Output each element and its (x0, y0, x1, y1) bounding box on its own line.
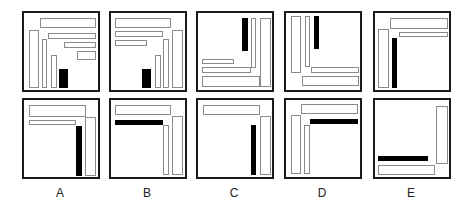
panel-a-top (22, 11, 100, 92)
outlined-bar (85, 117, 96, 176)
black-bar (242, 18, 248, 51)
black-bar (392, 38, 397, 88)
outlined-bar (399, 32, 448, 37)
outlined-bar (155, 55, 161, 88)
panel-d-top (284, 11, 362, 92)
outlined-bar (291, 115, 301, 174)
outlined-bar (436, 106, 448, 164)
black-bar (310, 119, 358, 124)
outlined-bar (115, 18, 171, 28)
black-bar (142, 69, 151, 88)
outlined-bar (172, 30, 183, 88)
outlined-bar (260, 18, 271, 87)
outlined-bar (29, 30, 39, 88)
outlined-bar (42, 39, 47, 88)
black-bar (378, 156, 428, 161)
outlined-bar (115, 40, 147, 46)
outlined-bar (64, 42, 96, 48)
option-label-a: A (22, 186, 98, 200)
black-bar (115, 120, 163, 125)
panel-a-bottom (22, 98, 100, 179)
outlined-bar (304, 125, 310, 174)
black-bar (59, 69, 68, 88)
outlined-bar (203, 105, 260, 115)
option-label-d: D (284, 186, 360, 200)
outlined-bar (251, 18, 256, 68)
outlined-bar (378, 165, 435, 175)
option-label-c: C (196, 186, 272, 200)
outlined-bar (40, 18, 96, 28)
outlined-bar (301, 104, 358, 114)
black-bar (314, 16, 319, 49)
outlined-bar (202, 76, 260, 87)
outlined-bar (163, 125, 169, 175)
option-label-b: B (109, 186, 185, 200)
panel-b-top (109, 11, 187, 92)
outlined-bar (29, 120, 76, 125)
outlined-bar (51, 55, 57, 88)
outlined-bar (291, 16, 301, 73)
outlined-bar (390, 18, 448, 29)
panel-c-top (196, 11, 274, 92)
outlined-bar (260, 116, 271, 175)
panel-b-bottom (109, 98, 187, 179)
black-bar (76, 126, 82, 176)
outlined-bar (302, 76, 359, 86)
outlined-bar (202, 67, 251, 73)
panel-c-bottom (196, 98, 274, 179)
outlined-bar (29, 105, 86, 117)
outlined-bar (172, 116, 183, 175)
outlined-bar (305, 16, 310, 67)
outlined-bar (378, 29, 389, 88)
panel-d-bottom (284, 98, 362, 179)
outlined-bar (115, 31, 163, 37)
black-bar (251, 125, 256, 175)
outlined-bar (48, 33, 96, 39)
outlined-bar (115, 105, 171, 115)
option-label-e: E (373, 186, 449, 200)
outlined-bar (202, 59, 234, 64)
outlined-bar (311, 67, 359, 73)
panel-e-bottom (373, 98, 451, 179)
outlined-bar (163, 39, 169, 88)
panel-e-top (373, 11, 451, 92)
outlined-bar (77, 51, 96, 60)
